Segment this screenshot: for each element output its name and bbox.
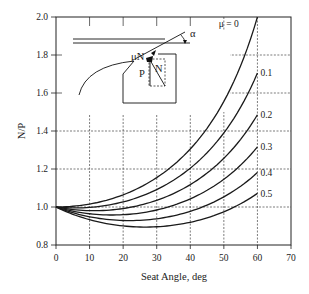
x-tick-label: 30 [152, 253, 162, 263]
curve-label: 0.4 [260, 168, 272, 178]
y-tick-label: 0.8 [36, 240, 48, 250]
y-tick-label: 2.0 [36, 12, 48, 22]
friction-chart: 0.81.01.21.41.61.82.0010203040506070 μN … [0, 0, 309, 294]
p-label: P [139, 68, 145, 79]
x-axis-label: Seat Angle, deg [141, 271, 208, 282]
curve-label: 0.5 [260, 189, 272, 199]
x-tick-label: 20 [118, 253, 128, 263]
y-tick-label: 1.2 [36, 164, 48, 174]
y-tick-label: 1.6 [36, 88, 48, 98]
y-tick-label: 1.8 [36, 50, 48, 60]
seat-inset-diagram: μN P N α [62, 28, 230, 112]
mu-n-label: μN [131, 51, 145, 62]
n-label: N [155, 63, 163, 74]
x-tick-label: 60 [253, 253, 263, 263]
y-tick-label: 1.0 [36, 202, 48, 212]
curve-label: 0.3 [260, 142, 272, 152]
x-tick-label: 10 [85, 253, 95, 263]
x-tick-label: 50 [219, 253, 229, 263]
y-tick-label: 1.4 [36, 126, 48, 136]
chart-svg: 0.81.01.21.41.61.82.0010203040506070 μN … [0, 0, 309, 294]
alpha-label: α [190, 28, 196, 39]
y-axis-label: N/P [16, 123, 27, 140]
curve-label: 0.1 [260, 68, 272, 78]
curve-label: 0.2 [260, 110, 272, 120]
curve-label: μ = 0 [219, 19, 239, 29]
x-tick-label: 70 [286, 253, 296, 263]
x-tick-label: 0 [54, 253, 59, 263]
x-tick-label: 40 [186, 253, 196, 263]
